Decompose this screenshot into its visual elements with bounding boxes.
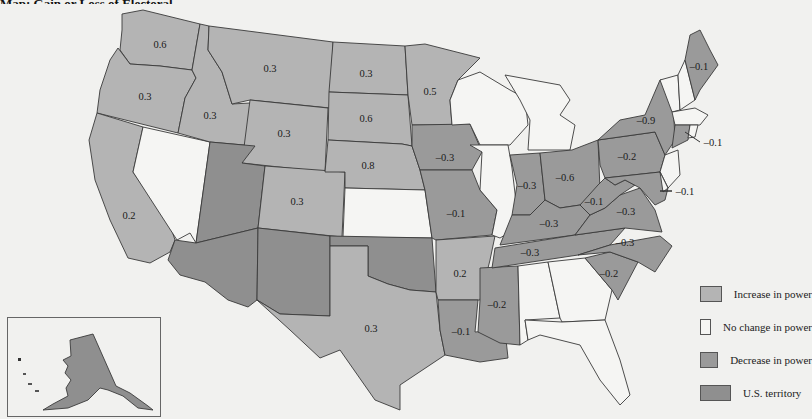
- swatch-no-change: [700, 319, 711, 335]
- label-pa: –0.2: [617, 151, 636, 162]
- label-ms: –0.2: [487, 299, 506, 310]
- legend-item-decrease: Decrease in power: [700, 343, 812, 376]
- label-nc: –0.3: [615, 237, 634, 248]
- label-sd: 0.6: [359, 113, 372, 124]
- label-oh: –0.6: [555, 172, 574, 183]
- alaska-map[interactable]: [8, 318, 160, 416]
- state-ks[interactable]: [343, 188, 432, 238]
- state-az[interactable]: [168, 228, 258, 307]
- legend-item-no-change: No change in power: [700, 310, 812, 343]
- label-ia: –0.3: [435, 152, 454, 163]
- label-nd: 0.3: [359, 68, 372, 79]
- label-mo: –0.1: [446, 208, 465, 219]
- label-ne: 0.8: [361, 160, 374, 171]
- label-or: 0.3: [138, 91, 151, 102]
- legend-item-territory: U.S. territory: [700, 376, 812, 409]
- alaska-inset: [7, 317, 161, 417]
- swatch-decrease: [700, 352, 718, 368]
- state-ia[interactable]: [412, 124, 482, 170]
- label-va: –0.3: [616, 206, 635, 217]
- label-wy: 0.3: [277, 128, 290, 139]
- label-mt: 0.3: [263, 63, 276, 74]
- label-la: –0.1: [451, 326, 470, 337]
- label-mn: 0.5: [423, 86, 436, 97]
- state-nm[interactable]: [257, 228, 330, 316]
- label-id: 0.3: [203, 110, 216, 121]
- label-ct: –0.1: [703, 137, 722, 148]
- label-co: 0.3: [290, 196, 303, 207]
- label-wv: –0.1: [584, 196, 603, 207]
- label-tx: 0.3: [364, 323, 377, 334]
- state-ct[interactable]: [672, 125, 690, 148]
- label-ny: –0.9: [636, 115, 655, 126]
- label-in: –0.3: [517, 180, 536, 191]
- label-tn: –0.3: [520, 247, 539, 258]
- label-sc: –0.2: [599, 268, 618, 279]
- label-ar: 0.2: [453, 268, 466, 279]
- label-md: –0.1: [675, 186, 694, 197]
- legend-item-increase: Increase in power: [700, 277, 812, 310]
- label-wa: 0.6: [153, 39, 166, 50]
- swatch-territory: [700, 385, 731, 401]
- state-ri[interactable]: [688, 125, 698, 138]
- swatch-increase: [700, 286, 722, 302]
- legend: Increase in power No change in power Dec…: [700, 277, 812, 409]
- label-ca: 0.2: [122, 210, 135, 221]
- label-me: –0.1: [689, 61, 708, 72]
- state-fl[interactable]: [525, 320, 630, 405]
- label-ky: –0.3: [539, 218, 558, 229]
